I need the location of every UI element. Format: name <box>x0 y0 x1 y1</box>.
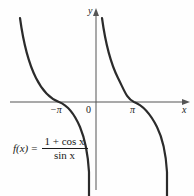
formula-fraction: 1 + cos x sin x <box>42 136 88 161</box>
x-tick-label-pi: π <box>130 105 135 115</box>
formula-function-name: f(x) <box>13 143 28 154</box>
function-graph-figure: y x −π 0 π f(x) = 1 + cos x sin x <box>0 0 194 196</box>
y-axis-label: y <box>88 6 92 16</box>
y-axis-arrowhead <box>93 8 99 16</box>
formula-numerator: 1 + cos x <box>42 136 88 148</box>
x-tick-label-negative-pi: −π <box>50 105 62 115</box>
formula-equals-sign: = <box>31 143 37 154</box>
x-tick-label-zero: 0 <box>86 105 91 115</box>
plot-canvas <box>0 0 194 196</box>
formula-denominator: sin x <box>51 149 78 161</box>
function-formula: f(x) = 1 + cos x sin x <box>13 136 88 161</box>
x-axis-label: x <box>182 105 186 115</box>
